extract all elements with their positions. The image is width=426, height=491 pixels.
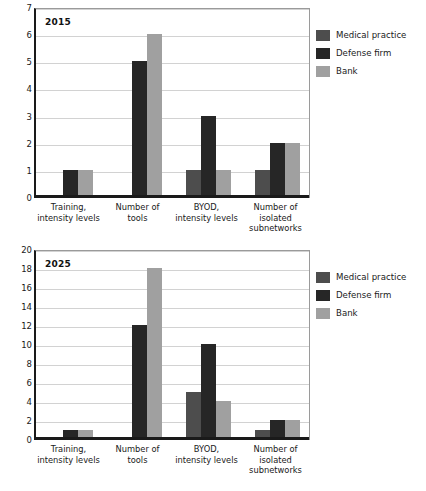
- y-axis-tick-label: 6: [27, 31, 32, 40]
- bar: [186, 392, 201, 440]
- y-axis-tick-label: 0: [27, 436, 32, 445]
- bar: [147, 34, 162, 197]
- legend-label-defense-firm: Defense firm: [336, 290, 391, 301]
- chart-2025-baseline: [34, 437, 309, 440]
- legend-item-defense-firm[interactable]: Defense firm: [316, 48, 426, 59]
- legend-item-medical-practice[interactable]: Medical practice: [316, 272, 426, 283]
- legend-swatch-medical-practice: [316, 30, 330, 41]
- chart-2025-bars: [36, 251, 309, 439]
- y-axis-tick-label: 8: [27, 360, 32, 369]
- legend-label-bank: Bank: [336, 308, 358, 319]
- bar-group: [186, 9, 231, 197]
- bar: [78, 170, 93, 197]
- legend-item-bank[interactable]: Bank: [316, 66, 426, 77]
- y-axis-tick-label: 4: [27, 398, 32, 407]
- chart-2015-baseline: [34, 195, 309, 198]
- bar-group: [255, 9, 300, 197]
- x-axis-category-label: Number ofisolatedsubnetworks: [235, 202, 316, 234]
- bar: [270, 143, 285, 197]
- legend-swatch-bank: [316, 66, 330, 77]
- y-axis-tick-label: 12: [21, 322, 32, 331]
- chart-page: 01234567 2015 Training,intensity levelsN…: [0, 0, 426, 491]
- y-axis-tick-label: 18: [21, 265, 32, 274]
- bar-group: [48, 251, 93, 439]
- chart-2015-bars: [36, 9, 309, 197]
- y-axis-tick-label: 3: [27, 112, 32, 121]
- chart-2015-y-axis: 01234567: [12, 8, 32, 198]
- legend-swatch-bank: [316, 308, 330, 319]
- legend-item-defense-firm[interactable]: Defense firm: [316, 290, 426, 301]
- bar-group: [117, 9, 162, 197]
- chart-2025: 02468101214161820 2025 Training,intensit…: [0, 250, 426, 490]
- bar: [63, 170, 78, 197]
- y-axis-tick-label: 0: [27, 194, 32, 203]
- bar: [201, 116, 216, 197]
- bar: [147, 268, 162, 439]
- chart-2025-plot: 2025: [34, 250, 310, 440]
- chart-2025-legend: Medical practiceDefense firmBank: [316, 272, 426, 326]
- bar: [186, 170, 201, 197]
- y-axis-tick-label: 6: [27, 379, 32, 388]
- bar-group: [117, 251, 162, 439]
- bar: [132, 325, 147, 439]
- legend-label-medical-practice: Medical practice: [336, 30, 406, 41]
- legend-item-bank[interactable]: Bank: [316, 308, 426, 319]
- legend-label-defense-firm: Defense firm: [336, 48, 391, 59]
- y-axis-tick-label: 7: [27, 4, 32, 13]
- chart-2025-title: 2025: [45, 259, 71, 269]
- bar-group: [255, 251, 300, 439]
- bar: [201, 344, 216, 439]
- legend-label-medical-practice: Medical practice: [336, 272, 406, 283]
- chart-2015-legend: Medical practiceDefense firmBank: [316, 30, 426, 84]
- legend-item-medical-practice[interactable]: Medical practice: [316, 30, 426, 41]
- bar-group: [48, 9, 93, 197]
- bar: [216, 170, 231, 197]
- chart-2015-title: 2015: [45, 17, 71, 27]
- y-axis-tick-label: 14: [21, 303, 32, 312]
- y-axis-tick-label: 2: [27, 417, 32, 426]
- bar: [255, 170, 270, 197]
- y-axis-tick-label: 5: [27, 58, 32, 67]
- legend-label-bank: Bank: [336, 66, 358, 77]
- y-axis-tick-label: 2: [27, 139, 32, 148]
- legend-swatch-defense-firm: [316, 290, 330, 301]
- legend-swatch-medical-practice: [316, 272, 330, 283]
- y-axis-tick-label: 10: [21, 341, 32, 350]
- chart-2015-plot: 2015: [34, 8, 310, 198]
- y-axis-tick-label: 16: [21, 284, 32, 293]
- y-axis-tick-label: 20: [21, 246, 32, 255]
- bar: [132, 61, 147, 197]
- bar-group: [186, 251, 231, 439]
- x-axis-category-label: Number ofisolatedsubnetworks: [235, 444, 316, 476]
- chart-2025-y-axis: 02468101214161820: [12, 250, 32, 440]
- y-axis-tick-label: 4: [27, 85, 32, 94]
- legend-swatch-defense-firm: [316, 48, 330, 59]
- chart-2015: 01234567 2015 Training,intensity levelsN…: [0, 8, 426, 248]
- bar: [285, 143, 300, 197]
- y-axis-tick-label: 1: [27, 167, 32, 176]
- bar: [216, 401, 231, 439]
